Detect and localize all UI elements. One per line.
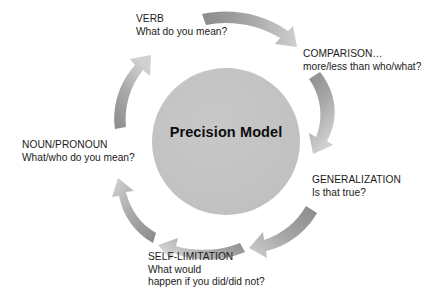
node-heading-generalization: GENERALIZATION [312, 174, 401, 187]
node-heading-self-limitation: SELF-LIMITATION [148, 251, 265, 264]
curved-arrow-top-right-icon [309, 72, 335, 154]
node-label-comparison: COMPARISON… more/less than who/what? [303, 48, 421, 73]
node-label-self-limitation: SELF-LIMITATION What would happen if you… [148, 251, 265, 289]
node-question-noun-pronoun: What/who do you mean? [22, 152, 135, 165]
node-heading-verb: VERB [136, 13, 227, 26]
node-question-generalization: Is that true? [312, 187, 401, 200]
node-label-generalization: GENERALIZATION Is that true? [312, 174, 401, 199]
node-question-self-limitation-line2: happen if you did/did not? [148, 276, 265, 289]
node-question-verb: What do you mean? [136, 26, 227, 39]
node-heading-comparison: COMPARISON… [303, 48, 421, 61]
node-question-comparison: more/less than who/what? [303, 61, 421, 74]
node-label-verb: VERB What do you mean? [136, 13, 227, 38]
node-heading-noun-pronoun: NOUN/PRONOUN [22, 139, 135, 152]
node-question-self-limitation: What would [148, 264, 265, 277]
center-title: Precision Model [152, 124, 300, 140]
center-circle [152, 68, 300, 215]
precision-model-diagram: Precision Model VERB What do you mean? C… [0, 0, 445, 298]
curved-arrow-top-left-icon [114, 55, 151, 129]
curved-arrow-bottom-left-icon [112, 178, 156, 243]
node-label-noun-pronoun: NOUN/PRONOUN What/who do you mean? [22, 139, 135, 164]
